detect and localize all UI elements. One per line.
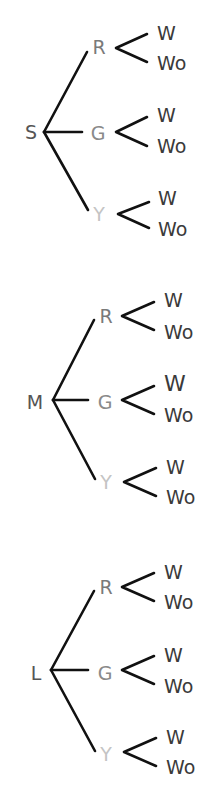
leaf-node-wo: Wo xyxy=(157,54,186,73)
leaf-node-w: W xyxy=(164,291,183,310)
root-node-m: M xyxy=(27,393,43,412)
branch-node-y: Y xyxy=(100,745,112,764)
branch-node-g: G xyxy=(98,393,113,412)
branch-node-y: Y xyxy=(100,473,112,492)
leaf-node-w: W xyxy=(157,24,176,43)
branch-node-r: R xyxy=(99,307,112,326)
leaf-node-wo: Wo xyxy=(157,137,186,156)
leaf-node-w: W xyxy=(166,728,185,747)
branch-node-y: Y xyxy=(93,205,105,224)
leaf-node-w: W xyxy=(166,458,185,477)
leaf-node-wo: Wo xyxy=(164,677,193,696)
leaf-node-wo: Wo xyxy=(158,220,187,239)
branch-node-r: R xyxy=(92,38,105,57)
branch-node-g: G xyxy=(98,664,113,683)
branch-node-g: G xyxy=(91,124,106,143)
leaf-node-wo: Wo xyxy=(166,758,195,777)
root-node-l: L xyxy=(31,664,42,683)
leaf-node-w: W xyxy=(164,563,183,582)
leaf-node-wo: Wo xyxy=(164,323,193,342)
leaf-node-w: W xyxy=(164,646,183,665)
leaf-node-w: W xyxy=(164,373,186,395)
root-node-s: S xyxy=(25,123,37,142)
leaf-node-wo: Wo xyxy=(164,406,193,425)
leaf-node-w: W xyxy=(157,106,176,125)
leaf-node-wo: Wo xyxy=(164,593,193,612)
leaf-node-w: W xyxy=(158,189,177,208)
leaf-node-wo: Wo xyxy=(166,488,195,507)
branch-node-r: R xyxy=(99,578,112,597)
